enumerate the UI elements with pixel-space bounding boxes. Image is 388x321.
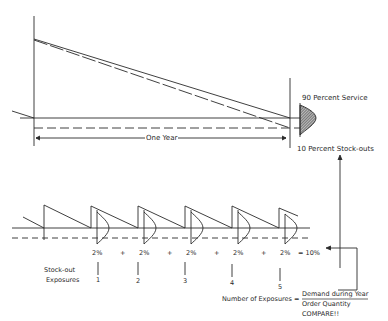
exposure-number-5: 5 — [278, 284, 282, 291]
exposure-distributions — [97, 210, 297, 244]
percent-1: 2% — [92, 250, 102, 257]
plus-3: + — [214, 250, 219, 257]
formula-lhs: Number of Exposures = — [222, 296, 300, 303]
percent-2: 2% — [139, 250, 149, 257]
formula-numerator: Demand during Year — [302, 291, 368, 298]
formula-denominator: Order Quantity — [302, 301, 351, 308]
service-label: 90 Percent Service — [302, 95, 368, 102]
compare-label: COMPARE!! — [302, 311, 339, 318]
demand-distribution — [300, 105, 316, 135]
exposure-number-3: 3 — [183, 278, 187, 285]
plus-1: + — [120, 250, 125, 257]
exposure-label-line2: Exposures — [46, 277, 79, 284]
percent-3: 2% — [186, 250, 196, 257]
exposure-number-4: 4 — [230, 280, 234, 287]
total-percent: = 10% — [298, 250, 320, 257]
top-diagram — [12, 16, 316, 148]
percent-5: 2% — [280, 250, 290, 257]
stockouts-label: 10 Percent Stock-outs — [297, 146, 374, 153]
high-demand-line — [34, 40, 290, 128]
exposure-number-1: 1 — [96, 277, 100, 284]
exposure-number-2: 2 — [136, 278, 140, 285]
one-year-label: One Year — [146, 135, 177, 142]
percent-4: 2% — [233, 250, 243, 257]
plus-2: + — [167, 250, 172, 257]
expected-demand-line — [34, 39, 290, 118]
plus-4: + — [261, 250, 266, 257]
exposure-label-line1: Stock-out — [44, 267, 75, 274]
